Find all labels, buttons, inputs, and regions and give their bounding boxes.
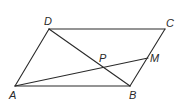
segment-DA: [15, 29, 49, 86]
label-P: P: [99, 52, 107, 64]
segment-BC: [130, 29, 165, 86]
segment-AM: [15, 58, 148, 86]
label-B: B: [129, 89, 136, 101]
segments: [15, 29, 165, 86]
label-C: C: [166, 17, 174, 29]
label-M: M: [150, 52, 160, 64]
label-D: D: [44, 15, 52, 27]
label-A: A: [8, 89, 16, 101]
segment-DB: [49, 29, 130, 86]
parallelogram-diagram: A B C D M P: [0, 0, 181, 110]
